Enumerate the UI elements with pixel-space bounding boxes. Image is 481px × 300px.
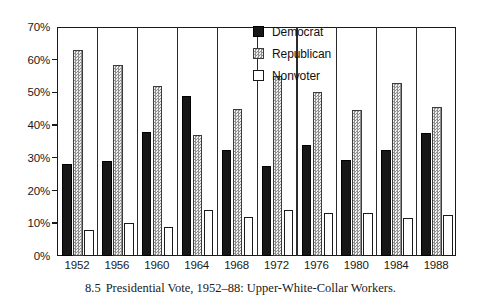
bar-group xyxy=(177,27,217,256)
bar-nonvoter-1984 xyxy=(403,218,413,256)
caption-number: 8.5 xyxy=(85,281,101,295)
bar-nonvoter-1972 xyxy=(284,210,294,256)
bar-democrat-1960 xyxy=(142,132,152,256)
y-axis-tick: 10% xyxy=(28,216,57,230)
legend-swatch-democrat-icon xyxy=(253,26,264,37)
bar-nonvoter-1980 xyxy=(363,213,373,256)
figure-presidential-vote: 0%10%20%30%40%50%60%70% 1952195619601964… xyxy=(0,0,481,300)
bar-republican-1964 xyxy=(193,135,203,256)
legend-swatch-nonvoter-icon xyxy=(253,70,264,81)
bar-democrat-1968 xyxy=(222,150,232,256)
legend-item-nonvoter: Nonvoter xyxy=(253,66,373,85)
y-axis-tick: 0% xyxy=(34,249,57,263)
x-axis-label-1980: 1980 xyxy=(336,259,376,271)
bar-republican-1976 xyxy=(313,92,323,256)
bar-republican-1968 xyxy=(233,109,243,256)
bar-republican-1972 xyxy=(273,76,283,256)
y-axis-tick-label: 70% xyxy=(28,20,57,34)
bar-nonvoter-1952 xyxy=(84,230,94,256)
legend-label-nonvoter: Nonvoter xyxy=(272,69,320,83)
x-axis: 1952195619601964196819721976198019841988 xyxy=(57,259,456,281)
x-axis-label-1972: 1972 xyxy=(257,259,297,271)
bar-group xyxy=(137,27,177,256)
x-axis-label-1952: 1952 xyxy=(57,259,97,271)
bar-group xyxy=(376,27,416,256)
bar-democrat-1952 xyxy=(62,164,72,256)
bar-nonvoter-1988 xyxy=(443,215,453,256)
bar-democrat-1984 xyxy=(381,150,391,256)
bar-democrat-1980 xyxy=(341,160,351,257)
bar-democrat-1956 xyxy=(102,161,112,256)
bar-nonvoter-1968 xyxy=(244,217,254,256)
group-separator xyxy=(137,27,138,256)
bar-nonvoter-1960 xyxy=(164,227,174,256)
x-axis-label-1960: 1960 xyxy=(137,259,177,271)
legend: Democrat Republican Nonvoter xyxy=(253,22,373,88)
figure-caption: 8.5Presidential Vote, 1952–88: Upper-Whi… xyxy=(0,281,481,296)
group-separator xyxy=(376,27,377,256)
y-axis-tick: 30% xyxy=(28,151,57,165)
bar-republican-1952 xyxy=(73,50,83,256)
group-separator xyxy=(97,27,98,256)
bar-group xyxy=(57,27,97,256)
x-axis-label-1984: 1984 xyxy=(376,259,416,271)
y-axis-tick: 60% xyxy=(28,53,57,67)
x-axis-label-1988: 1988 xyxy=(416,259,456,271)
x-axis-label-1964: 1964 xyxy=(177,259,217,271)
bar-democrat-1964 xyxy=(182,96,192,256)
bar-republican-1984 xyxy=(392,83,402,256)
y-axis-tick: 40% xyxy=(28,118,57,132)
legend-item-republican: Republican xyxy=(253,44,373,63)
caption-text: Presidential Vote, 1952–88: Upper-White-… xyxy=(106,281,396,295)
bar-republican-1956 xyxy=(113,65,123,256)
y-axis-tick: 20% xyxy=(28,184,57,198)
bar-nonvoter-1956 xyxy=(124,223,134,256)
group-separator xyxy=(217,27,218,256)
bar-group xyxy=(217,27,257,256)
bar-republican-1980 xyxy=(352,110,362,256)
bar-nonvoter-1976 xyxy=(324,213,334,256)
bar-democrat-1976 xyxy=(302,145,312,256)
group-separator xyxy=(177,27,178,256)
bar-republican-1960 xyxy=(153,86,163,256)
x-axis-label-1976: 1976 xyxy=(296,259,336,271)
legend-label-democrat: Democrat xyxy=(272,25,323,39)
bar-democrat-1988 xyxy=(421,133,431,256)
legend-label-republican: Republican xyxy=(272,47,331,61)
bar-democrat-1972 xyxy=(262,166,272,256)
bar-nonvoter-1964 xyxy=(204,210,214,256)
y-axis-tick: 50% xyxy=(28,85,57,99)
x-axis-label-1968: 1968 xyxy=(217,259,257,271)
bar-group xyxy=(97,27,137,256)
group-separator xyxy=(416,27,417,256)
legend-swatch-republican-icon xyxy=(253,48,264,59)
bar-group xyxy=(416,27,456,256)
y-axis: 0%10%20%30%40%50%60%70% xyxy=(0,0,57,260)
bar-republican-1988 xyxy=(432,107,442,256)
y-axis-tick-label: 0% xyxy=(34,249,57,263)
legend-item-democrat: Democrat xyxy=(253,22,373,41)
x-axis-label-1956: 1956 xyxy=(97,259,137,271)
y-axis-tick: 70% xyxy=(28,20,57,34)
